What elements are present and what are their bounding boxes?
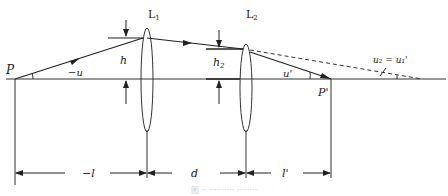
figure-caption: 图 ·· ·········· ········ xyxy=(0,184,448,195)
label-dist-l-prime: l' xyxy=(282,167,289,180)
label-angle-u-prime: u' xyxy=(283,68,292,79)
label-dist-d: d xyxy=(191,167,198,180)
angle-tick-mark xyxy=(380,68,386,76)
ray-arrow-icon xyxy=(320,73,331,79)
label-lens2: L2 xyxy=(246,8,258,22)
label-height-h: h xyxy=(120,54,127,67)
label-angle-u: −u xyxy=(68,67,83,78)
ray-arrow-icon xyxy=(70,58,80,65)
lens-2 xyxy=(240,44,252,132)
ray-segment-2 xyxy=(147,38,243,49)
label-relation: u₂ = u₁' xyxy=(373,55,408,65)
label-dist-l: −l xyxy=(82,167,95,180)
label-image-point: P' xyxy=(317,86,328,99)
two-lens-ray-diagram: P P' L1 L2 −u h h2 u' u₂ = u₁' −l d l' xyxy=(0,0,448,196)
lens-1 xyxy=(141,28,153,132)
label-height-h2: h2 xyxy=(213,56,225,70)
ray-arrow-icon xyxy=(183,40,192,46)
label-lens1: L1 xyxy=(148,8,160,22)
label-object-point: P xyxy=(5,63,15,77)
